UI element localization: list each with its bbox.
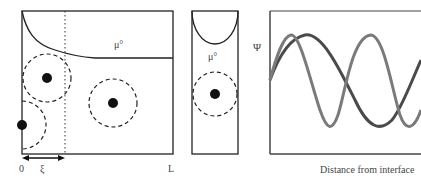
wall-particle-dot (17, 120, 27, 130)
right-panel: Ψ Distance from interface (253, 11, 421, 175)
mu-label-middle: μ° (208, 51, 217, 62)
diagram-canvas: μ° 0 ξ L μ° Ψ Distance from interface (0, 0, 421, 178)
psi-axis-label: Ψ (253, 41, 262, 53)
particle-dot (108, 98, 118, 108)
length-label: L (168, 163, 174, 174)
middle-panel: μ° (192, 11, 238, 154)
arrowhead-left-icon (22, 155, 29, 161)
particle-dot (42, 73, 52, 83)
chemical-potential-curve (22, 11, 173, 58)
left-panel: μ° 0 ξ L (17, 11, 174, 175)
arrowhead-right-icon (58, 155, 65, 161)
xi-label: ξ (40, 163, 45, 175)
x-axis-label: Distance from interface (320, 164, 415, 175)
middle-panel-frame (192, 11, 238, 154)
particle-dot (210, 89, 220, 99)
mu-label-left: μ° (114, 39, 123, 50)
origin-label: 0 (19, 163, 24, 174)
wave-short-wavelength (270, 35, 421, 127)
confined-potential-curve (192, 11, 238, 44)
